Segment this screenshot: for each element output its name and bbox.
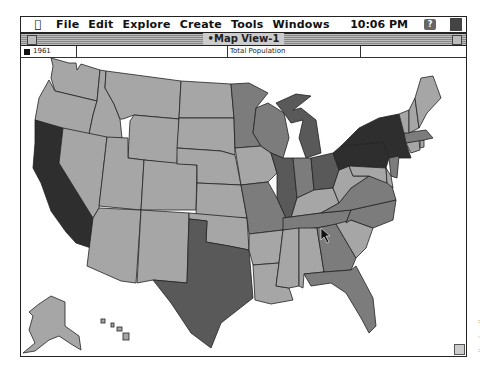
zoom-box-icon[interactable]: [452, 35, 462, 45]
menu-explore[interactable]: Explore: [123, 18, 171, 31]
desktop-edge-mark: ·: [478, 333, 480, 340]
state-RI[interactable]: [420, 140, 424, 148]
variable-cell: Total Population: [228, 46, 361, 57]
state-AR[interactable]: [249, 230, 283, 265]
state-AZ[interactable]: [87, 208, 141, 283]
window-title: •Map View-1: [203, 33, 285, 45]
application-menu-icon[interactable]: [450, 18, 462, 31]
menu-create[interactable]: Create: [180, 18, 222, 31]
menu-clock: 10:06 PM: [350, 18, 408, 31]
apple-menu-icon[interactable]: : [29, 18, 47, 31]
state-WY[interactable]: [128, 115, 179, 164]
menu-windows[interactable]: Windows: [272, 18, 329, 31]
map-canvas[interactable]: [21, 58, 466, 356]
menu-file[interactable]: File: [56, 18, 79, 31]
window-title-bar[interactable]: •Map View-1: [21, 34, 466, 46]
grow-box-icon[interactable]: [454, 344, 465, 355]
menu-tools[interactable]: Tools: [231, 18, 263, 31]
close-box-icon[interactable]: [27, 35, 37, 45]
map-view-window: •Map View-1 1961 Total Population: [20, 33, 467, 357]
menu-bar:  File Edit Explore Create Tools Windows…: [20, 16, 467, 33]
year-label: 1961: [33, 46, 51, 57]
state-ME[interactable]: [415, 76, 441, 128]
year-cell[interactable]: 1961: [21, 46, 77, 57]
year-selector-icon[interactable]: [24, 49, 30, 55]
state-AK[interactable]: [23, 296, 81, 353]
state-HI[interactable]: [101, 319, 129, 340]
state-FL[interactable]: [304, 266, 376, 333]
blank-cell-right: [361, 46, 466, 57]
info-bar: 1961 Total Population: [21, 46, 466, 58]
menu-edit[interactable]: Edit: [88, 18, 113, 31]
state-CO[interactable]: [141, 160, 197, 210]
desktop-edge-mark: :: [478, 317, 480, 324]
state-ND[interactable]: [179, 81, 234, 118]
help-icon[interactable]: ?: [424, 19, 436, 30]
state-KS[interactable]: [196, 183, 247, 218]
desktop-edge-mark: :: [478, 346, 480, 353]
state-NM[interactable]: [137, 210, 189, 283]
blank-cell: [77, 46, 228, 57]
